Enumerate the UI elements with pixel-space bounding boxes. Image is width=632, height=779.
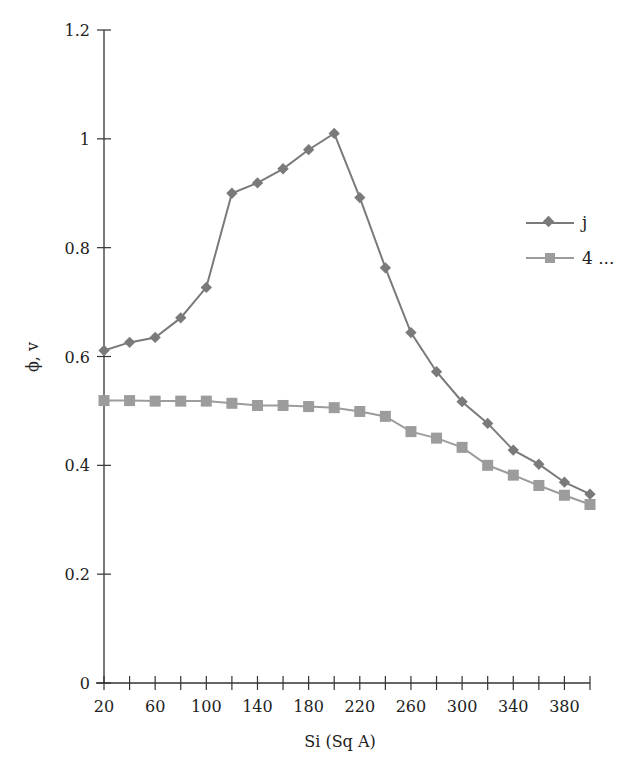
square-marker-icon (533, 480, 544, 491)
diamond-marker-icon (405, 327, 416, 338)
diamond-marker-icon (252, 177, 263, 188)
square-marker-icon (482, 460, 493, 471)
diamond-marker-icon (354, 192, 365, 203)
square-marker-icon (99, 395, 110, 406)
series-layer (98, 128, 595, 510)
square-marker-icon (252, 400, 263, 411)
square-marker-icon (226, 398, 237, 409)
y-tick-label: 1 (80, 130, 90, 149)
diamond-marker-icon (380, 262, 391, 273)
square-marker-icon (431, 433, 442, 444)
y-tick-label: 0.6 (65, 348, 90, 367)
x-tick-label: 140 (242, 697, 273, 716)
square-marker-icon (354, 406, 365, 417)
diamond-marker-icon (584, 489, 595, 500)
diamond-marker-icon (543, 216, 554, 227)
x-tick-label: 20 (94, 697, 114, 716)
x-axis-title: Si (Sq A) (304, 732, 376, 751)
square-marker-icon (405, 426, 416, 437)
legend-label-4: 4 ... (582, 248, 614, 268)
x-tick-label: 60 (145, 697, 165, 716)
square-marker-icon (150, 396, 161, 407)
square-marker-icon (508, 470, 519, 481)
legend-item-4: 4 ... (526, 248, 614, 268)
square-marker-icon (124, 395, 135, 406)
square-marker-icon (585, 499, 596, 510)
square-marker-icon (559, 490, 570, 501)
x-tick-label: 220 (345, 697, 376, 716)
square-marker-icon (303, 401, 314, 412)
legend-label-j: j (580, 212, 587, 232)
x-tick-label: 340 (498, 697, 529, 716)
line-chart: 00.20.40.60.811.2 2060100140180220260300… (0, 0, 632, 779)
series-line (104, 133, 590, 494)
y-tick-label: 1.2 (65, 21, 90, 40)
legend: j 4 ... (526, 212, 614, 268)
y-tick-label: 0.8 (65, 239, 90, 258)
square-marker-icon (175, 396, 186, 407)
x-tick-label: 100 (191, 697, 222, 716)
x-tick-label: 380 (549, 697, 580, 716)
y-tick-label: 0.2 (65, 565, 90, 584)
y-tick-label: 0.4 (65, 456, 90, 475)
y-axis-title: ϕ, v (23, 342, 42, 372)
square-marker-icon (545, 253, 555, 263)
x-axis: 2060100140180220260300340380 (94, 676, 590, 716)
diamond-marker-icon (226, 188, 237, 199)
legend-item-j: j (526, 212, 587, 232)
series-4 (99, 395, 596, 510)
square-marker-icon (380, 411, 391, 422)
square-marker-icon (278, 400, 289, 411)
series-j (98, 128, 595, 500)
y-tick-label: 0 (80, 674, 90, 693)
diamond-marker-icon (98, 345, 109, 356)
x-tick-label: 180 (293, 697, 324, 716)
diamond-marker-icon (329, 128, 340, 139)
x-tick-label: 300 (447, 697, 478, 716)
y-axis: 00.20.40.60.811.2 (65, 21, 111, 693)
square-marker-icon (201, 396, 212, 407)
x-tick-label: 260 (396, 697, 427, 716)
diamond-marker-icon (124, 337, 135, 348)
square-marker-icon (457, 442, 468, 453)
square-marker-icon (329, 402, 340, 413)
